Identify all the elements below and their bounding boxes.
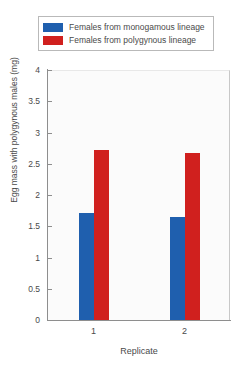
bar xyxy=(94,150,109,320)
y-tick-label: 4 xyxy=(0,65,40,75)
y-tick-label: 1 xyxy=(0,253,40,263)
legend-swatch-polygynous xyxy=(43,36,63,45)
x-axis-line xyxy=(47,320,231,321)
y-tick-label: 2 xyxy=(0,190,40,200)
y-tick-label: 2.5 xyxy=(0,159,40,169)
legend-label-polygynous: Females from polygynous lineage xyxy=(69,35,196,45)
y-axis-title: Egg mass with polygynous males (mg) xyxy=(9,30,19,230)
y-tick-label: 1.5 xyxy=(0,221,40,231)
x-axis-title: Replicate xyxy=(48,346,230,356)
bar xyxy=(79,213,94,320)
x-tick-label: 2 xyxy=(165,326,205,336)
chart-legend: Females from monogamous lineage Females … xyxy=(38,16,214,51)
legend-label-monogamous: Females from monogamous lineage xyxy=(69,22,205,32)
x-tick-label: 1 xyxy=(74,326,114,336)
bars-layer xyxy=(48,70,230,320)
y-tick-label: 3.5 xyxy=(0,96,40,106)
bar xyxy=(170,217,185,320)
bar xyxy=(185,153,200,320)
legend-swatch-monogamous xyxy=(43,23,63,32)
y-tick-mark xyxy=(48,320,52,321)
y-tick-label: 3 xyxy=(0,128,40,138)
legend-item-monogamous: Females from monogamous lineage xyxy=(43,21,208,33)
y-tick-label: 0.5 xyxy=(0,284,40,294)
bar-chart: Females from monogamous lineage Females … xyxy=(0,0,242,372)
legend-item-polygynous: Females from polygynous lineage xyxy=(43,34,208,46)
y-tick-label: 0 xyxy=(0,315,40,325)
